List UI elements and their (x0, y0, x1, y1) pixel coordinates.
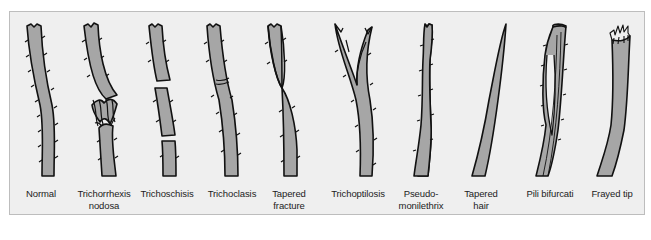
label-tapered-hair: Taperedhair (441, 188, 521, 212)
hair-pili-bifurcati-icon (536, 24, 568, 176)
hair-trichoclasis-icon (204, 24, 241, 176)
hair-normal-icon (25, 24, 58, 176)
hair-pseudo-monilethrix-icon (413, 24, 434, 176)
hair-frayed-tip-icon (597, 25, 630, 176)
label-tapered-fracture: Taperedfracture (249, 188, 329, 212)
hair-tapered-hair-icon (472, 24, 506, 176)
hair-trichorrhexis-nodosa-icon (82, 23, 118, 176)
hair-trichoptilosis-icon (335, 24, 377, 176)
hair-tapered-fracture-icon (265, 24, 300, 176)
label-frayed-tip: Frayed tip (572, 188, 651, 200)
hair-trichoschisis-icon (146, 24, 179, 176)
